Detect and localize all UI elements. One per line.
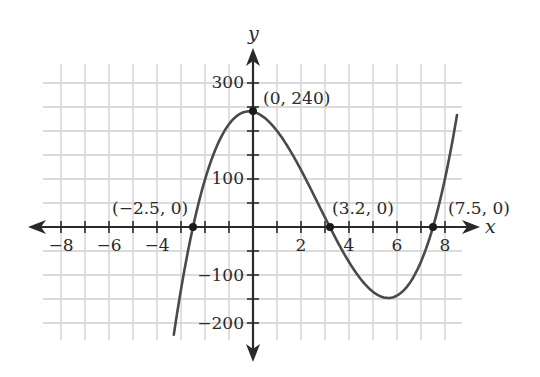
y-tick-label: 100 xyxy=(212,168,244,188)
cubic-curve xyxy=(174,111,457,334)
label-root-mid: (3.2, 0) xyxy=(332,198,394,218)
x-axis-label: x xyxy=(485,215,496,237)
point-root-mid xyxy=(326,223,334,231)
x-tick-label: −8 xyxy=(48,235,73,255)
y-tick-label: 300 xyxy=(212,72,244,92)
point-root-left xyxy=(189,223,197,231)
x-tick-label: −6 xyxy=(96,235,121,255)
cubic-function-graph: −8 −6 −4 2 4 6 8 300 100 −100 −200 x y (… xyxy=(0,0,540,377)
y-tick-label: −100 xyxy=(197,265,244,285)
x-tick-label: 2 xyxy=(296,235,307,255)
point-y-intercept xyxy=(249,107,257,115)
y-tick-label: −200 xyxy=(197,313,244,333)
label-y-intercept: (0, 240) xyxy=(263,88,330,108)
x-tick-label: −4 xyxy=(144,235,169,255)
y-axis xyxy=(246,48,260,362)
x-tick-label: 6 xyxy=(392,235,403,255)
label-root-left: (−2.5, 0) xyxy=(112,198,188,218)
y-axis-label: y xyxy=(247,22,259,44)
x-tick-label: 4 xyxy=(344,235,355,255)
point-root-right xyxy=(429,223,437,231)
x-tick-label: 8 xyxy=(440,235,451,255)
label-root-right: (7.5, 0) xyxy=(448,198,510,218)
